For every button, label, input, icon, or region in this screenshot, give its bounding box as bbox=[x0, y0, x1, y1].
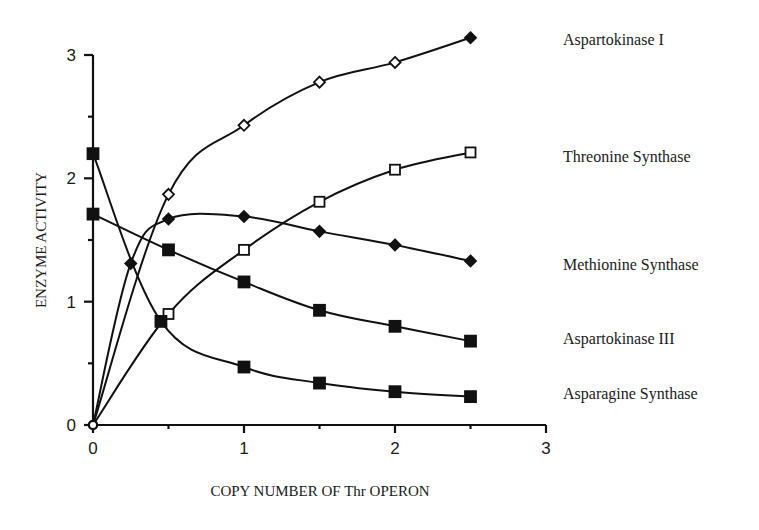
open-diamond-marker bbox=[163, 189, 174, 200]
series-curve bbox=[93, 214, 471, 341]
filled-diamond-marker bbox=[239, 211, 250, 222]
series-curve bbox=[93, 152, 471, 425]
open-square-marker bbox=[466, 147, 476, 157]
filled-square-marker bbox=[88, 148, 99, 159]
y-axis-title: ENZYME ACTIVITY bbox=[33, 172, 49, 308]
axes: 01230123 bbox=[67, 46, 551, 458]
filled-square-marker bbox=[390, 386, 401, 397]
open-diamond-marker bbox=[314, 77, 325, 88]
series-label: Threonine Synthase bbox=[563, 148, 691, 166]
filled-square-marker bbox=[465, 336, 476, 347]
x-tick-label: 1 bbox=[239, 439, 248, 458]
x-tick-label: 3 bbox=[541, 439, 550, 458]
y-tick-label: 0 bbox=[67, 416, 76, 435]
origin-marker bbox=[89, 421, 97, 429]
y-tick-label: 2 bbox=[67, 169, 76, 188]
series-labels: Aspartokinase IThreonine SynthaseMethion… bbox=[563, 31, 699, 403]
series-label: Aspartokinase III bbox=[563, 330, 675, 348]
filled-square-marker bbox=[239, 276, 250, 287]
filled-diamond-marker bbox=[465, 255, 476, 266]
series-curves bbox=[93, 38, 471, 425]
filled-square-marker bbox=[314, 378, 325, 389]
series-curve bbox=[93, 38, 471, 425]
filled-square-marker bbox=[88, 209, 99, 220]
series-label: Asparagine Synthase bbox=[563, 385, 698, 403]
x-tick-label: 0 bbox=[88, 439, 97, 458]
open-diamond-marker bbox=[390, 57, 401, 68]
filled-square-marker bbox=[314, 305, 325, 316]
filled-diamond-marker bbox=[163, 214, 174, 225]
filled-square-marker bbox=[390, 321, 401, 332]
open-square-marker bbox=[315, 197, 325, 207]
x-axis-title: COPY NUMBER OF Thr OPERON bbox=[210, 483, 429, 499]
filled-diamond-marker bbox=[314, 226, 325, 237]
open-square-marker bbox=[239, 245, 249, 255]
enzyme-activity-chart: 01230123 Aspartokinase IThreonine Syntha… bbox=[0, 0, 759, 530]
series-label: Aspartokinase I bbox=[563, 31, 664, 49]
series-curve bbox=[93, 154, 471, 397]
filled-square-marker bbox=[163, 244, 174, 255]
filled-diamond-marker bbox=[390, 239, 401, 250]
filled-square-marker bbox=[239, 362, 250, 373]
filled-square-marker bbox=[465, 391, 476, 402]
filled-square-marker bbox=[155, 316, 166, 327]
y-tick-label: 3 bbox=[67, 46, 76, 65]
open-square-marker bbox=[390, 165, 400, 175]
x-tick-label: 2 bbox=[390, 439, 399, 458]
series-label: Methionine Synthase bbox=[563, 256, 699, 274]
y-tick-label: 1 bbox=[67, 293, 76, 312]
filled-diamond-marker bbox=[465, 32, 476, 43]
